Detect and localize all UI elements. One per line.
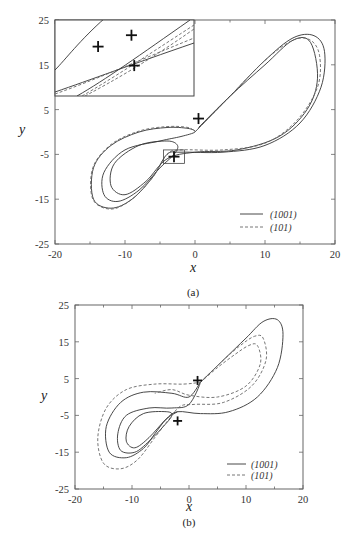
panel-b-curves (98, 319, 283, 469)
trajectory-dashed (98, 335, 267, 469)
y-tick-label: -25 (55, 484, 69, 495)
panel-b-markers (173, 376, 202, 425)
panel-b-caption: (b) (183, 516, 196, 529)
x-tick-label: -20 (68, 494, 82, 505)
panel-a-markers (169, 113, 205, 162)
x-tick-label: -20 (48, 249, 62, 260)
legend-label-101: (101) (251, 470, 273, 482)
panel-b-xlabel: x (185, 499, 193, 514)
panel-a-caption: (a) (187, 286, 200, 299)
y-tick-label: 15 (59, 337, 70, 348)
panel-a: -20-1001020-25-15-551525 (1001) (101) x … (17, 15, 340, 299)
x-tick-label: 20 (330, 249, 341, 260)
x-tick-label: 20 (298, 494, 309, 505)
y-tick-label: 5 (44, 105, 49, 116)
y-tick-label: -5 (60, 410, 69, 421)
x-tick-label: -10 (118, 249, 132, 260)
panel-b-legend: (1001) (101) (227, 459, 278, 482)
legend-label-1001: (1001) (270, 209, 297, 221)
x-tick-label: 0 (192, 249, 197, 260)
panel-b: -20-1001020-25-15-551525 (1001) (101) x … (39, 300, 308, 529)
panel-b-ylabel: y (39, 388, 48, 403)
y-tick-label: 25 (39, 15, 50, 26)
x-tick-label: 10 (260, 249, 271, 260)
figure: -20-1001020-25-15-551525 (1001) (101) x … (0, 0, 353, 537)
panel-a-xlabel: x (189, 260, 197, 275)
panel-a-ylabel: y (17, 122, 26, 137)
y-tick-label: -5 (40, 149, 49, 160)
y-tick-label: 15 (39, 60, 50, 71)
x-tick-label: 10 (241, 494, 252, 505)
y-tick-label: -15 (55, 447, 69, 458)
trajectory-dashed (155, 344, 261, 398)
x-tick-label: -10 (125, 494, 139, 505)
panel-a-legend: (1001) (101) (240, 209, 297, 234)
y-tick-label: 5 (64, 374, 69, 385)
inset-magnified (55, 18, 194, 96)
trajectory-solid (105, 319, 283, 458)
legend-label-101: (101) (270, 222, 292, 234)
y-tick-label: 25 (59, 300, 70, 311)
y-tick-label: -15 (35, 194, 49, 205)
y-tick-label: -25 (35, 239, 49, 250)
